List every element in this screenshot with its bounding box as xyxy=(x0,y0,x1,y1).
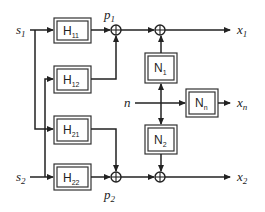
block-N2: N2 xyxy=(145,125,177,154)
label-p1: p1 xyxy=(103,7,115,24)
sum-junction-x1 xyxy=(155,25,165,35)
sum-junction-x2 xyxy=(155,172,165,182)
sum-junction-p1 xyxy=(111,25,121,35)
block-Nn: Nn xyxy=(186,89,218,117)
block-diagram: s1 s2 n H11 H12 H21 H22 xyxy=(0,0,265,212)
label-p2: p2 xyxy=(103,187,116,204)
block-H12: H12 xyxy=(54,66,91,93)
input-label-s1: s1 xyxy=(16,22,26,39)
input-label-s2: s2 xyxy=(16,169,26,186)
output-label-x1: x1 xyxy=(236,22,247,39)
block-N1: N1 xyxy=(145,53,177,83)
wires-s2 xyxy=(30,79,53,177)
wires-h-outputs xyxy=(91,30,116,177)
block-H21: H21 xyxy=(54,116,91,144)
output-label-xn: xn xyxy=(236,95,248,112)
sum-junction-p2 xyxy=(111,172,121,182)
output-label-x2: x2 xyxy=(236,169,248,186)
block-H11: H11 xyxy=(54,18,91,43)
input-label-n: n xyxy=(124,95,131,110)
block-H22: H22 xyxy=(54,164,91,190)
